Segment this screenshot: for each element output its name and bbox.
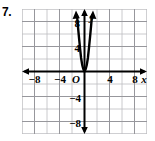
origin-label: O <box>72 73 80 85</box>
x-tick-label-neg4: −4 <box>54 73 66 85</box>
x-tick-label-4: 4 <box>107 73 113 85</box>
y-tick-label-4: 4 <box>75 42 81 54</box>
x-tick-label-8: 8 <box>132 73 138 85</box>
x-axis-label: x <box>140 73 147 85</box>
problem-number: 7. <box>2 5 11 19</box>
y-axis-label: y <box>88 11 95 23</box>
y-tick-label-neg4: −4 <box>69 92 81 104</box>
x-tick-label-neg8: −8 <box>29 73 41 85</box>
coordinate-graph: 8 4 −4 −8 −8 −4 4 8 O x y <box>22 9 147 134</box>
figure-container: 7. <box>0 0 155 141</box>
y-tick-label-neg8: −8 <box>69 117 81 129</box>
graph-svg: 8 4 −4 −8 −8 −4 4 8 O x y <box>22 9 147 134</box>
y-tick-label-8: 8 <box>75 17 81 29</box>
